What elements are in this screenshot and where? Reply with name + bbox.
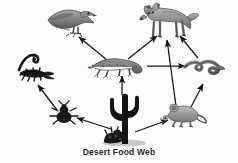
arrow-mouse-to-snake [191,84,203,107]
cactus-icon [102,94,146,147]
scorpion-icon [19,55,54,81]
beetle-icon [50,101,78,124]
arrow-cactus-to-beetle [77,118,111,129]
mouse-icon [160,104,206,127]
arrow-lizard-to-hawk [79,37,107,60]
desert-food-web-diagram: Desert Food Web [0,0,238,163]
arrow-cactus-to-mouse [135,120,168,132]
arrow-lizard-to-coyote [128,36,157,59]
arrow-snake-to-coyote [180,36,198,58]
hawk-icon [48,10,97,37]
coyote-icon [140,3,199,37]
arrow-mouse-to-coyote [167,40,176,106]
lizard-icon [88,59,142,78]
diagram-caption: Desert Food Web [0,147,238,157]
arrow-beetle-to-scorpion [38,85,57,110]
food-web-canvas [0,0,238,163]
snake-icon [182,61,225,73]
